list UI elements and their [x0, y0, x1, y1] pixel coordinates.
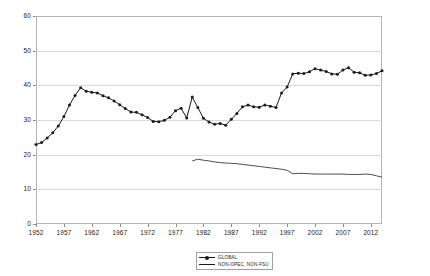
data-point-marker — [157, 120, 160, 123]
data-point-marker — [325, 70, 328, 73]
data-point-marker — [269, 105, 272, 108]
data-point-marker — [174, 109, 177, 112]
data-point-marker — [314, 67, 317, 70]
data-point-marker — [118, 103, 121, 106]
data-point-marker — [146, 116, 149, 119]
series-line-non-opec-non-fsu — [192, 159, 382, 177]
data-point-marker — [280, 91, 283, 94]
data-point-marker — [152, 120, 155, 123]
legend-swatch-non-opec-non-fsu — [199, 261, 215, 268]
data-point-marker — [319, 69, 322, 72]
data-point-marker — [107, 96, 110, 99]
data-point-marker — [208, 121, 211, 124]
series-markers-global — [35, 66, 384, 146]
data-point-marker — [113, 99, 116, 102]
data-point-marker — [185, 116, 188, 119]
data-point-marker — [297, 72, 300, 75]
legend-marker-icon — [205, 256, 209, 260]
legend-label-global: GLOBAL — [218, 255, 237, 260]
data-point-marker — [163, 119, 166, 122]
data-point-marker — [336, 73, 339, 76]
data-point-marker — [85, 90, 88, 93]
data-point-marker — [263, 104, 266, 107]
data-point-marker — [364, 74, 367, 77]
data-point-marker — [202, 117, 205, 120]
data-point-marker — [381, 69, 384, 72]
legend-entry-global: GLOBAL — [199, 254, 269, 261]
data-point-marker — [291, 72, 294, 75]
data-point-marker — [180, 107, 183, 110]
data-point-marker — [219, 122, 222, 125]
legend-entry-non-opec-non-fsu: NON-OPEC, NON-FSU — [199, 261, 269, 268]
data-point-marker — [274, 106, 277, 109]
chart-container: 0102030405060 19521957196219671972197719… — [0, 0, 430, 276]
data-point-marker — [196, 106, 199, 109]
data-point-marker — [79, 86, 82, 89]
data-point-marker — [40, 141, 43, 144]
data-point-marker — [35, 143, 38, 146]
data-point-marker — [247, 104, 250, 107]
legend-swatch-global — [199, 254, 215, 261]
legend-line-icon — [199, 264, 215, 265]
data-point-marker — [286, 86, 289, 89]
data-point-marker — [90, 91, 93, 94]
data-point-marker — [302, 72, 305, 75]
data-point-marker — [129, 111, 132, 114]
data-point-marker — [62, 115, 65, 118]
legend-label-non-opec-non-fsu: NON-OPEC, NON-FSU — [218, 262, 269, 267]
data-point-marker — [68, 104, 71, 107]
series-layer — [0, 0, 430, 276]
data-point-marker — [124, 107, 127, 110]
data-point-marker — [224, 124, 227, 127]
data-point-marker — [141, 113, 144, 116]
data-point-marker — [135, 111, 138, 114]
data-point-marker — [358, 71, 361, 74]
data-point-marker — [330, 72, 333, 75]
data-point-marker — [375, 72, 378, 75]
series-line-global — [36, 68, 382, 145]
data-point-marker — [57, 124, 60, 127]
data-point-marker — [213, 123, 216, 126]
data-point-marker — [369, 73, 372, 76]
data-point-marker — [230, 118, 233, 121]
data-point-marker — [74, 94, 77, 97]
data-point-marker — [341, 69, 344, 72]
data-point-marker — [51, 131, 54, 134]
data-point-marker — [101, 94, 104, 97]
data-point-marker — [347, 66, 350, 69]
data-point-marker — [241, 105, 244, 108]
data-point-marker — [191, 96, 194, 99]
data-point-marker — [258, 106, 261, 109]
data-point-marker — [96, 91, 99, 94]
data-point-marker — [308, 70, 311, 73]
data-point-marker — [353, 71, 356, 74]
data-point-marker — [235, 112, 238, 115]
data-point-marker — [168, 116, 171, 119]
chart-legend: GLOBAL NON-OPEC, NON-FSU — [196, 252, 273, 270]
data-point-marker — [252, 105, 255, 108]
data-point-marker — [46, 137, 49, 140]
